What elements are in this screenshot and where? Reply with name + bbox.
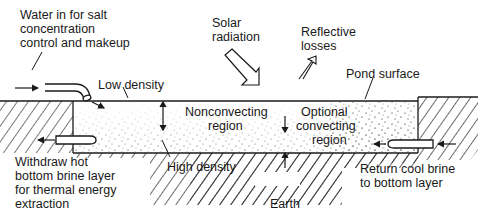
withdraw-hot-label: Withdraw hot	[15, 155, 88, 169]
svg-text:control and makeup: control and makeup	[20, 36, 130, 50]
svg-text:radiation: radiation	[212, 30, 260, 44]
svg-text:extraction: extraction	[15, 197, 69, 211]
svg-text:for thermal energy: for thermal energy	[15, 183, 117, 197]
optional-convecting-region-label: Optional	[301, 105, 348, 119]
svg-text:convecting: convecting	[296, 119, 356, 133]
nonconvecting-region-label: Nonconvecting	[185, 105, 268, 119]
solar-pond-diagram: Water in for salt concentration control …	[0, 0, 494, 222]
reflective-losses-label: Reflective	[301, 25, 356, 39]
inlet-pipe	[45, 84, 92, 102]
svg-text:concentration: concentration	[20, 22, 95, 36]
svg-text:region: region	[208, 119, 243, 133]
solar-radiation-label: Solar	[212, 16, 241, 30]
svg-text:losses: losses	[301, 39, 336, 53]
return-pipe	[388, 140, 433, 148]
low-density-label: Low density	[98, 78, 165, 92]
return-cool-label: Return cool brine	[360, 162, 455, 176]
pond-surface-label: Pond surface	[346, 67, 420, 81]
withdraw-pipe	[56, 136, 96, 144]
solar-radiation-arrow	[225, 49, 259, 85]
earth-label: Earth	[270, 197, 300, 211]
svg-text:bottom brine layer: bottom brine layer	[15, 169, 115, 183]
water-in-label: Water in for salt	[20, 8, 108, 22]
high-density-label: High density	[167, 160, 237, 174]
svg-text:to bottom layer: to bottom layer	[360, 176, 443, 190]
svg-text:region: region	[312, 133, 347, 147]
reflective-losses-arrow	[299, 56, 316, 79]
